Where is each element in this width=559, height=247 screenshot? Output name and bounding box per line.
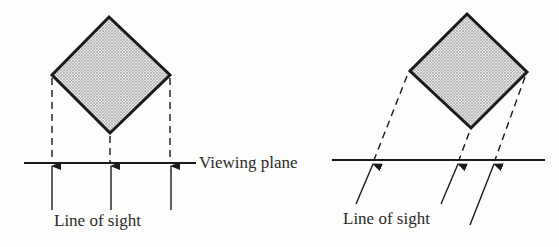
viewing-plane-label: Viewing plane [199, 154, 298, 171]
left-line-of-sight-arrows [52, 166, 171, 210]
right-panel [332, 14, 545, 225]
line-of-sight-label-left: Line of sight [54, 212, 141, 229]
diagram-canvas: Viewing plane Line of sight Line of sigh… [0, 0, 559, 247]
left-square-object [52, 17, 170, 133]
diagram-svg [0, 0, 559, 247]
right-square-object [410, 14, 527, 128]
line-of-sight-label-right: Line of sight [343, 210, 430, 227]
left-panel [24, 17, 196, 210]
